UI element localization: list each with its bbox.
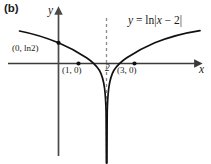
annotation-y-intercept: (0, ln2) — [12, 44, 39, 53]
annotation-x-intercept-right: (3, 0) — [117, 66, 137, 75]
figure-panel-b: (b) y x y = ln|x − 2| (0, ln2) (1, 0) (3… — [0, 0, 211, 164]
panel-label: (b) — [4, 3, 19, 15]
curve-right-branch — [107, 31, 200, 163]
y-axis-label: y — [48, 5, 53, 17]
equation-label: y = ln|x − 2| — [128, 15, 182, 27]
annotation-x-intercept-left: (1, 0) — [62, 66, 82, 75]
equation-fn: ln — [145, 14, 154, 26]
equation-arg-rest: − 2 — [165, 14, 180, 26]
marked-point-y-intercept — [56, 41, 60, 45]
annotation-asymptote-tick: 2 — [105, 64, 110, 74]
x-axis-label: x — [199, 64, 204, 76]
equation-bar-close: | — [180, 14, 182, 26]
